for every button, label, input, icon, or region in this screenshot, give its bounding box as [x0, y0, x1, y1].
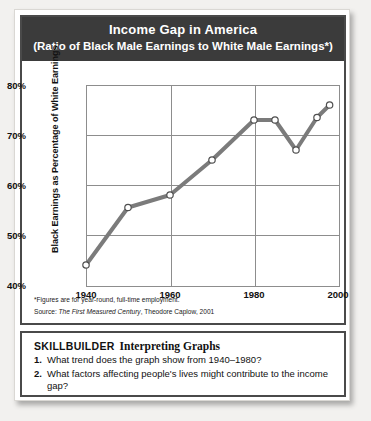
y-tick-40: 40% [0, 280, 26, 291]
question-number: 1. [34, 354, 47, 367]
source-suffix: , Theodore Caplow, 2001 [141, 308, 215, 315]
marker-1985 [272, 117, 278, 123]
question-text: What factors affecting people's lives mi… [47, 368, 334, 393]
skillbuilder-label: SKILLBUILDER [34, 340, 115, 352]
question-number: 2. [34, 368, 47, 393]
chart-subtitle: (Ratio of Black Male Earnings to White M… [22, 38, 344, 54]
marker-1995 [314, 114, 320, 120]
marker-1990 [293, 147, 299, 153]
y-axis-label: Black Earnings as Percentage of White Ea… [50, 63, 60, 253]
graph-panel: Income Gap in America (Ratio of Black Ma… [20, 15, 346, 325]
series-markers [83, 102, 333, 268]
source-line: Source: The First Measured Century, Theo… [34, 307, 334, 317]
skillbuilder-topic: Interpreting Graphs [120, 340, 220, 352]
marker-1998 [326, 102, 332, 108]
series-line [86, 105, 330, 265]
chart-area: Black Earnings as Percentage of White Ea… [22, 61, 344, 323]
marker-1950 [125, 204, 131, 210]
marker-1980 [251, 117, 257, 123]
footnote-text: *Figures are for year-round, full-time e… [34, 295, 334, 305]
skillbuilder-panel: SKILLBUILDERInterpreting Graphs 1. What … [20, 331, 346, 397]
skillbuilder-heading: SKILLBUILDERInterpreting Graphs [34, 340, 334, 352]
question-text: What trend does the graph show from 1940… [47, 354, 334, 367]
marker-1940 [83, 262, 89, 268]
y-tick-70: 70% [0, 130, 26, 141]
source-prefix: Source: [34, 308, 59, 315]
y-tick-50: 50% [0, 230, 26, 241]
chart-notes: *Figures are for year-round, full-time e… [34, 295, 334, 317]
page-root: Income Gap in America (Ratio of Black Ma… [0, 0, 371, 421]
chart-title-bar: Income Gap in America (Ratio of Black Ma… [22, 17, 344, 61]
y-tick-60: 60% [0, 180, 26, 191]
chart-title: Income Gap in America [22, 21, 344, 38]
marker-1960 [167, 192, 173, 198]
figure-card-inner: Income Gap in America (Ratio of Black Ma… [20, 15, 346, 397]
figure-card: Income Gap in America (Ratio of Black Ma… [14, 9, 350, 401]
source-book-title: The First Measured Century [59, 308, 141, 315]
skillbuilder-question: 1. What trend does the graph show from 1… [34, 354, 334, 367]
skillbuilder-question: 2. What factors affecting people's lives… [34, 368, 334, 393]
data-series [86, 85, 340, 287]
y-tick-80: 80% [0, 80, 26, 91]
marker-1970 [209, 157, 215, 163]
